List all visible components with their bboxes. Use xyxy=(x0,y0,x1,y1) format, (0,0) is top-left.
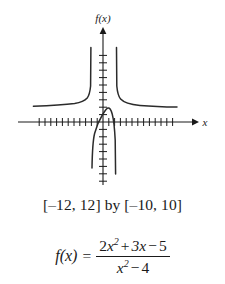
denominator-term-2: 4 xyxy=(141,259,149,276)
formula-equals-sign: = xyxy=(80,247,96,265)
numerator-variable-1: x xyxy=(107,237,114,254)
y-axis-arrowhead xyxy=(100,27,107,34)
formula-numerator: 2x2+3x−5 xyxy=(96,236,170,256)
figure-root: f(x) x [–12, 12] by [–10, 10] f(x) = 2x2… xyxy=(0,0,225,284)
numerator-term-2: 3x xyxy=(132,237,147,254)
curve-group xyxy=(33,48,177,175)
denominator-exponent-1: 2 xyxy=(124,258,129,269)
x-axis-label: x xyxy=(202,116,208,128)
graph-svg: f(x) x xyxy=(0,0,225,196)
numerator-operator-2: − xyxy=(146,237,159,254)
curve-right-branch xyxy=(117,48,178,108)
denominator-operator-1: − xyxy=(129,259,142,276)
curve-middle-branch xyxy=(92,108,116,174)
numerator-term-3: 5 xyxy=(159,237,167,254)
formula-function-name: f(x) xyxy=(55,247,80,265)
denominator-variable-1: x xyxy=(117,259,124,276)
function-formula: f(x) = 2x2+3x−5 x2−4 xyxy=(0,236,225,276)
numerator-coefficient-1: 2 xyxy=(99,237,107,254)
y-axis-label: f(x) xyxy=(95,12,111,25)
viewing-window-caption: [–12, 12] by [–10, 10] xyxy=(0,196,225,214)
graph-panel: f(x) x xyxy=(0,0,225,196)
x-axis-arrowhead xyxy=(192,119,199,126)
formula-denominator: x2−4 xyxy=(114,257,152,277)
formula-fraction: 2x2+3x−5 x2−4 xyxy=(96,236,170,276)
curve-left-branch xyxy=(33,48,91,107)
numerator-operator-1: + xyxy=(119,237,132,254)
